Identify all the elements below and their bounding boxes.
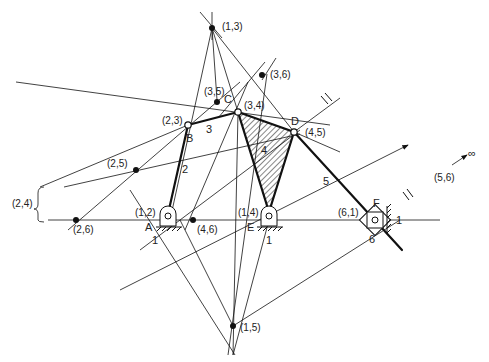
joint-label-C: C xyxy=(224,94,232,105)
joint-label-D: D xyxy=(291,116,299,127)
joint-D xyxy=(291,129,297,135)
link-label-4: 4 xyxy=(261,145,267,156)
ic-label-1-2: (1,2) xyxy=(135,208,156,218)
link-label-6: 6 xyxy=(369,234,375,245)
joint-B xyxy=(185,122,191,128)
link-5 xyxy=(294,132,402,250)
ic-label-2-6: (2,6) xyxy=(73,225,94,235)
joint-C xyxy=(235,109,241,115)
link-label-5: 5 xyxy=(323,176,329,187)
ic-label-1-5: (1,5) xyxy=(240,323,261,333)
linkage-diagram xyxy=(0,0,489,362)
infinity-arrow xyxy=(452,155,467,165)
ic-label-1-4: (1,4) xyxy=(238,208,259,218)
ic-label-2-4: (2,4) xyxy=(12,199,33,209)
ic-label-1-3: (1,3) xyxy=(222,22,243,32)
ic-label-4-5: (4,5) xyxy=(305,128,326,138)
link-label-3: 3 xyxy=(206,124,212,135)
link-4-plate xyxy=(238,112,294,212)
joint-label-E: E xyxy=(247,222,254,233)
pivot-A xyxy=(156,206,182,231)
joint-label-A: A xyxy=(145,222,152,233)
ic-label-6-1: (6,1) xyxy=(338,208,359,218)
link-label-1-b: 1 xyxy=(266,235,272,246)
link-label-1-a: 1 xyxy=(152,235,158,246)
ic-label-3-5: (3,5) xyxy=(204,87,225,97)
ic-dots xyxy=(73,25,265,329)
construction-lines xyxy=(16,12,440,355)
ic-label-3-4: (3,4) xyxy=(244,101,265,111)
bracket-2-4 xyxy=(34,187,44,222)
infinity-symbol: ∞ xyxy=(468,148,476,159)
joint-label-B: B xyxy=(186,133,193,144)
ic-label-2-5: (2,5) xyxy=(107,159,128,169)
ic-label-5-6: (5,6) xyxy=(434,173,455,183)
joint-label-F: F xyxy=(373,198,380,209)
ic-label-2-3: (2,3) xyxy=(162,116,183,126)
link-label-1-c: 1 xyxy=(396,215,402,226)
ic-label-3-6: (3,6) xyxy=(270,70,291,80)
ic-label-4-6: (4,6) xyxy=(197,225,218,235)
parallel-marks xyxy=(321,93,413,200)
link-label-2: 2 xyxy=(182,164,188,175)
